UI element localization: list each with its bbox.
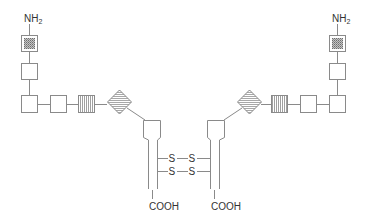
left-striped-domain: [79, 96, 95, 113]
right-domain-4: [301, 96, 317, 113]
left-corner-domain: [22, 96, 38, 113]
left-chain: [22, 24, 161, 199]
left-hinge-domain: [144, 121, 161, 190]
left-n-terminus-label: NH2: [24, 13, 42, 25]
disulfide-s-1b: S: [189, 153, 196, 164]
protein-dimer-diagram: NH2 NH2 S S S S COOH COOH: [0, 0, 369, 224]
disulfide-s-2b: S: [189, 166, 196, 177]
right-corner-domain: [330, 96, 346, 113]
disulfide-bonds: [158, 159, 211, 172]
disulfide-s-1a: S: [169, 153, 176, 164]
right-striped-domain: [272, 96, 288, 113]
right-n-terminus-label: NH2: [332, 13, 350, 25]
right-diamond-domain: [238, 90, 262, 114]
right-c-terminus-label: COOH: [211, 201, 241, 212]
left-stippled-domain: [22, 36, 38, 52]
right-chain: [208, 24, 346, 199]
left-domain-2: [22, 64, 38, 80]
left-c-terminus-label: COOH: [149, 201, 179, 212]
right-hinge-domain: [208, 121, 225, 190]
left-diamond-domain: [108, 90, 132, 114]
disulfide-s-2a: S: [169, 166, 176, 177]
right-stippled-domain: [330, 36, 346, 52]
left-domain-4: [51, 96, 67, 113]
right-domain-2: [330, 64, 346, 80]
